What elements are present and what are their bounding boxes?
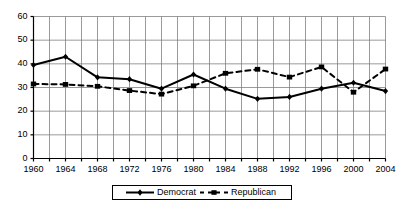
x-axis-tick-label: 1996: [305, 165, 339, 174]
chart-legend: Democrat Republican: [112, 185, 292, 200]
data-point-marker: [319, 86, 324, 92]
x-axis-tick-label: 1976: [145, 165, 179, 174]
data-point-marker: [287, 75, 292, 80]
x-axis-tick-label: 2000: [337, 165, 371, 174]
legend-item-democrat: Democrat: [125, 186, 199, 199]
x-axis-tick-label: 1992: [273, 165, 307, 174]
legend-item-republican: Republican: [199, 186, 279, 199]
legend-key-democrat-icon: [125, 187, 155, 198]
y-axis-tick-label: 40: [17, 59, 27, 68]
data-point-marker: [31, 82, 36, 87]
x-axis-tick-label: 1964: [49, 165, 83, 174]
data-point-marker: [351, 90, 356, 95]
y-axis-tick-label: 20: [17, 106, 27, 115]
data-point-marker: [223, 86, 228, 92]
line-chart: 0102030405060 19601964196819721976198019…: [0, 0, 403, 209]
data-point-marker: [319, 65, 324, 70]
x-axis-tick-label: 1984: [209, 165, 243, 174]
data-point-marker: [255, 96, 260, 102]
legend-key-republican-icon: [199, 187, 229, 198]
data-point-marker: [95, 84, 100, 89]
x-axis-tick-label: 1988: [241, 165, 275, 174]
x-axis-tick-label: 1960: [17, 165, 51, 174]
plot-area: [0, 0, 403, 209]
data-point-marker: [31, 62, 36, 68]
legend-label-republican: Republican: [229, 188, 279, 197]
data-point-marker: [223, 71, 228, 76]
legend-label-democrat: Democrat: [155, 188, 199, 197]
data-point-marker: [127, 88, 132, 93]
y-axis-tick-label: 0: [22, 154, 27, 163]
data-point-marker: [159, 92, 164, 97]
data-point-marker: [191, 83, 196, 88]
data-point-marker: [255, 67, 260, 72]
y-axis-tick-label: 50: [17, 35, 27, 44]
x-axis-tick-label: 2004: [369, 165, 403, 174]
y-axis-tick-label: 60: [17, 12, 27, 21]
x-axis-tick-label: 1968: [81, 165, 115, 174]
data-point-marker: [351, 80, 356, 86]
data-point-marker: [287, 94, 292, 100]
data-point-marker: [159, 86, 164, 92]
y-axis-tick-label: 30: [17, 83, 27, 92]
data-point-marker: [127, 76, 132, 82]
data-point-marker: [191, 71, 196, 77]
y-axis-tick-label: 10: [17, 130, 27, 139]
data-point-marker: [383, 67, 388, 72]
x-axis-tick-label: 1980: [177, 165, 211, 174]
axes: [31, 17, 386, 162]
x-axis-tick-label: 1972: [113, 165, 147, 174]
data-point-marker: [383, 88, 388, 94]
data-point-marker: [63, 82, 68, 87]
